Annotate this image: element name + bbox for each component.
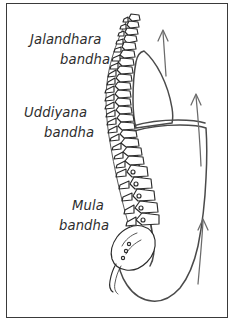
lumbar-vertebrae (116, 165, 159, 226)
label-jalandhara-line1: Jalandhara (27, 32, 101, 47)
label-uddiyana-line2: bandha (44, 125, 94, 140)
upward-energy-arrow-thoracic (158, 30, 168, 76)
vertebral-column (105, 14, 159, 294)
sacrum-and-coccyx (110, 226, 156, 294)
thoracic-cavity-outline (133, 51, 173, 128)
label-jalandhara-line2: bandha (60, 52, 110, 67)
bandhas-anatomy-illustration: Jalandhara bandha Uddiyana bandha Mula b… (0, 0, 246, 326)
label-mula-bandha: Mula bandha (59, 198, 109, 233)
label-jalandhara-bandha: Jalandhara bandha (27, 32, 110, 67)
upward-energy-arrow-pelvic (198, 219, 208, 284)
energy-arrows (158, 30, 208, 284)
figure-page: Jalandhara bandha Uddiyana bandha Mula b… (0, 0, 246, 326)
label-uddiyana-line1: Uddiyana (24, 105, 87, 120)
label-mula-line1: Mula (72, 198, 104, 213)
label-uddiyana-bandha: Uddiyana bandha (24, 105, 94, 140)
label-mula-line2: bandha (59, 218, 109, 233)
upward-energy-arrow-abdominal (191, 94, 201, 166)
thoracic-vertebrae (105, 66, 144, 168)
figure-canvas: Jalandhara bandha Uddiyana bandha Mula b… (0, 0, 246, 326)
bandha-labels: Jalandhara bandha Uddiyana bandha Mula b… (24, 32, 110, 233)
